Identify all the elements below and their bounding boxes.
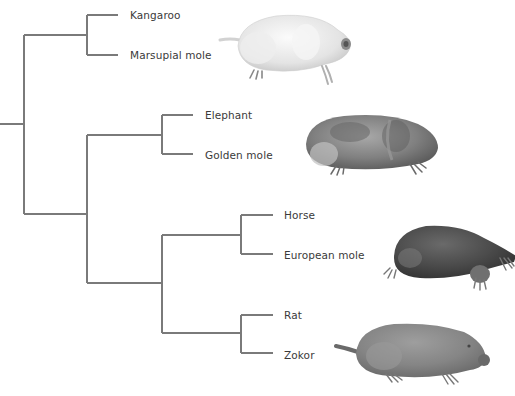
zokor-illustration [334,318,494,390]
leaf-label-golden-mole: Golden mole [205,149,273,161]
leaf-label-kangaroo: Kangaroo [130,9,181,21]
phylogenetic-tree-diagram: Kangaroo Marsupial mole Elephant Golden … [0,0,515,396]
leaf-label-horse: Horse [284,209,315,221]
leaf-label-elephant: Elephant [205,109,252,121]
european-mole-illustration [380,218,515,293]
golden-mole-illustration [300,110,445,180]
leaf-label-marsupial-mole: Marsupial mole [130,49,212,61]
marsupial-mole-illustration [218,8,358,88]
leaf-label-rat: Rat [284,309,302,321]
leaf-label-european-mole: European mole [284,249,365,261]
leaf-label-zokor: Zokor [284,349,315,361]
